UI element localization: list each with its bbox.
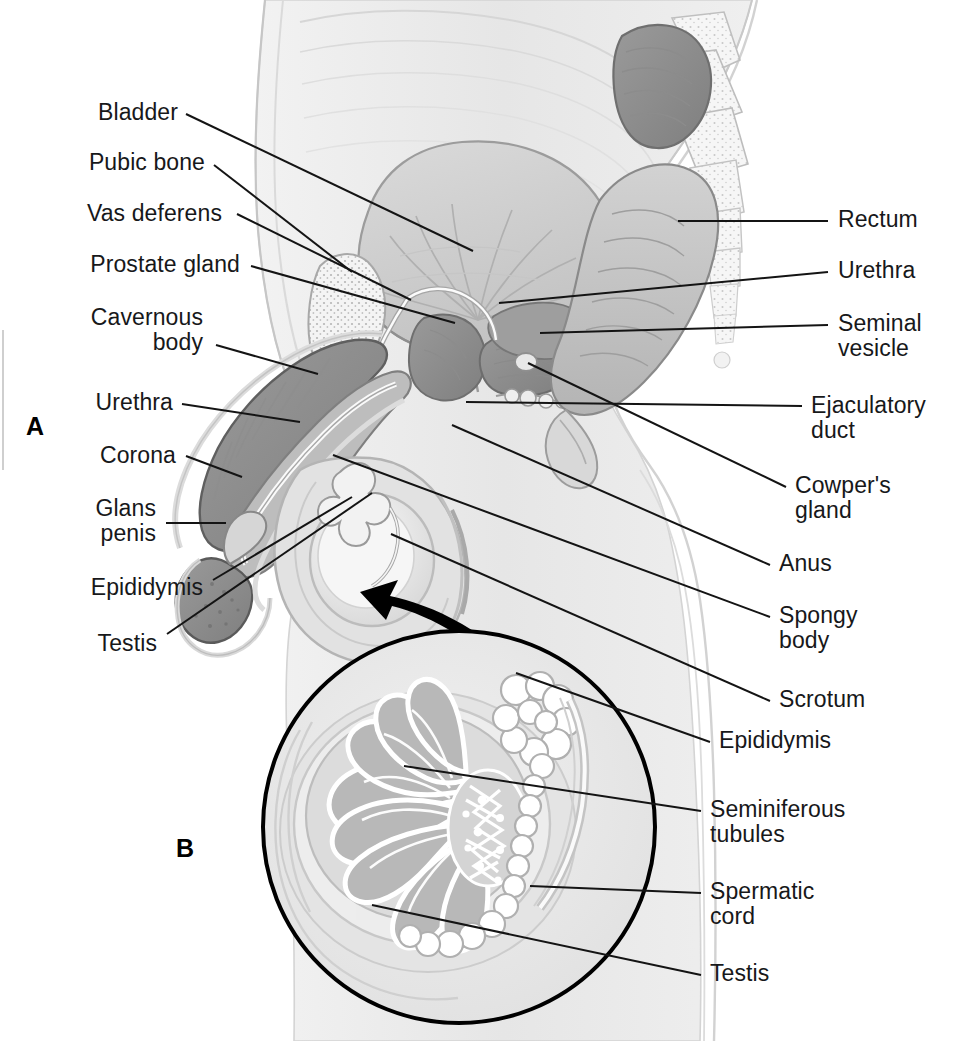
label-prostate-gland: Prostate gland bbox=[90, 252, 240, 277]
cowpers-gland bbox=[515, 353, 537, 371]
label-bladder: Bladder bbox=[98, 100, 178, 125]
label-urethra-prostatic: Urethra bbox=[838, 258, 915, 283]
panel-b-mark: B bbox=[176, 834, 194, 863]
prostate-gland bbox=[409, 315, 485, 401]
panel-a-mark: A bbox=[26, 412, 44, 441]
label-epididymis-b: Epididymis bbox=[719, 728, 831, 753]
label-cavernous-body: Cavernous body bbox=[91, 305, 203, 355]
label-vas-deferens: Vas deferens bbox=[87, 201, 222, 226]
label-pubic-bone: Pubic bone bbox=[89, 150, 205, 175]
label-rectum: Rectum bbox=[838, 207, 918, 232]
label-testis-b: Testis bbox=[710, 961, 769, 986]
testis-detail-inset bbox=[263, 631, 655, 1023]
label-cowpers-gland: Cowper's gland bbox=[795, 473, 891, 523]
label-seminal-vesicle: Seminal vesicle bbox=[838, 311, 922, 361]
label-glans-penis: Glans penis bbox=[95, 496, 156, 546]
label-urethra-penile: Urethra bbox=[96, 390, 173, 415]
label-spongy-body: Spongy body bbox=[779, 603, 858, 653]
label-anus: Anus bbox=[779, 551, 832, 576]
label-spermatic-cord: Spermatic cord bbox=[710, 879, 814, 929]
label-corona: Corona bbox=[100, 443, 176, 468]
label-ejaculatory-duct: Ejaculatory duct bbox=[811, 393, 926, 443]
label-seminiferous-tubules: Seminiferous tubules bbox=[710, 797, 845, 847]
label-epididymis-a: Epididymis bbox=[91, 575, 203, 600]
anatomy-figure: A B BladderPubic boneVas deferensProstat… bbox=[0, 0, 957, 1041]
label-scrotum: Scrotum bbox=[779, 687, 865, 712]
label-testis-a: Testis bbox=[98, 631, 157, 656]
